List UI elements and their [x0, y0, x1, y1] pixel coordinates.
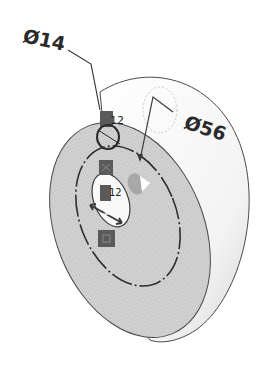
dimension-leader-inner [68, 50, 100, 110]
fix-badge[interactable] [98, 230, 115, 247]
relation-label-2: 12 [109, 187, 122, 198]
dimension-label-inner[interactable]: Ø14 [21, 24, 67, 54]
cad-viewport[interactable]: Ø14 Ø56 12 12 [0, 0, 256, 371]
